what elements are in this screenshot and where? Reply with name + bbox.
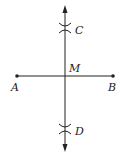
label-b: B: [107, 81, 116, 94]
label-d: D: [74, 125, 84, 138]
arrow-up-icon: [63, 5, 68, 13]
label-c: C: [75, 24, 84, 37]
point-b: [111, 74, 115, 78]
arrow-down-icon: [63, 144, 68, 152]
label-m: M: [68, 62, 81, 75]
label-a: A: [10, 81, 19, 94]
point-a: [15, 74, 19, 78]
diagram-canvas: C M A B D: [0, 0, 123, 157]
